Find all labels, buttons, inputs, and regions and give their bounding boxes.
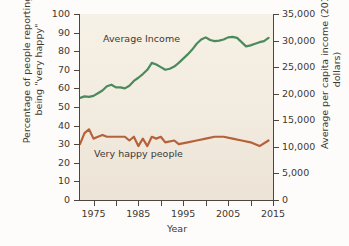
y-ticklabel-right: 0 [282,195,288,205]
y-tick-left [74,88,79,89]
x-tick [183,201,184,206]
y-axis-left-spine [79,14,80,201]
x-axis-spine [80,200,274,201]
x-tick [94,201,95,206]
y-ticklabel-right: 5,000 [282,168,309,178]
x-ticklabel: 2015 [261,208,285,219]
x-ticklabel: 2005 [216,208,240,219]
series-line-average-income [80,37,269,98]
chart-figure: 010203040506070809010005,00010,00015,000… [0,0,349,246]
x-tick [251,201,252,206]
y-ticklabel-right: 35,000 [282,9,315,19]
y-tick-left [74,181,79,182]
y-tick-left [74,51,79,52]
y-ticklabel-right: 30,000 [282,36,315,46]
y-ticklabel-left: 70 [58,65,70,75]
y-ticklabel-left: 90 [58,28,70,38]
series-label-average-income: Average Income [103,33,180,44]
y-tick-right [274,14,279,15]
y-ticklabel-left: 100 [52,9,70,19]
y-tick-left [74,14,79,15]
y-ticklabel-right: 10,000 [282,142,315,152]
y-tick-right [274,67,279,68]
x-tick [228,201,229,206]
x-tick [116,201,117,206]
series-label-very-happy-people: Very happy people [94,148,183,159]
x-axis-title: Year [80,223,274,234]
y-axis-right-title: Average per capita income (2015 dollars) [319,0,342,163]
x-ticklabel: 1975 [81,208,105,219]
y-tick-left [74,200,79,201]
y-tick-left [74,144,79,145]
y-tick-left [74,33,79,34]
y-ticklabel-right: 25,000 [282,62,315,72]
y-ticklabel-left: 40 [58,121,70,131]
y-ticklabel-left: 80 [58,46,70,56]
y-tick-left [74,126,79,127]
y-ticklabel-left: 50 [58,102,70,112]
y-ticklabel-left: 0 [64,195,70,205]
x-ticklabel: 1985 [126,208,150,219]
x-tick [138,201,139,206]
y-tick-right [274,94,279,95]
y-tick-right [274,41,279,42]
y-ticklabel-left: 20 [58,158,70,168]
y-tick-right [274,120,279,121]
x-tick [161,201,162,206]
series-line-very-happy-people [80,129,269,146]
y-ticklabel-left: 60 [58,83,70,93]
x-tick [273,201,274,206]
y-tick-left [74,163,79,164]
y-ticklabel-right: 20,000 [282,89,315,99]
x-ticklabel: 1995 [171,208,195,219]
y-ticklabel-left: 10 [58,176,70,186]
y-ticklabel-right: 15,000 [282,115,315,125]
x-tick [206,201,207,206]
y-ticklabel-left: 30 [58,139,70,149]
y-tick-right [274,173,279,174]
y-tick-left [74,107,79,108]
y-tick-right [274,200,279,201]
y-axis-left-title: Percentage of people reporting being "ve… [21,0,44,155]
y-tick-right [274,147,279,148]
y-tick-left [74,70,79,71]
